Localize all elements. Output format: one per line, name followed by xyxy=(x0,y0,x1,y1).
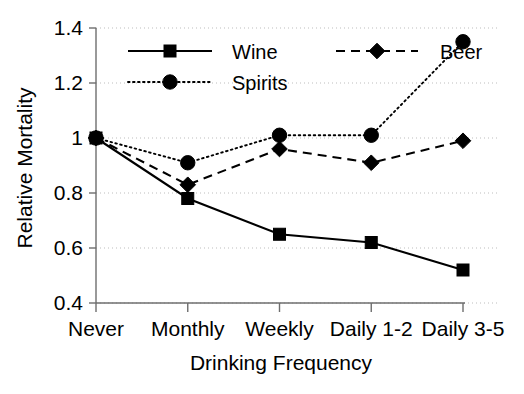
legend-item-spirits[interactable]: Spirits xyxy=(128,72,288,94)
x-tick-label: Daily 1-2 xyxy=(330,317,413,340)
data-point-marker xyxy=(274,228,286,240)
legend-item-beer[interactable]: Beer xyxy=(336,41,483,63)
chart-legend: WineSpiritsBeer xyxy=(128,41,483,94)
data-point-marker xyxy=(365,237,377,249)
x-tick-label: Weekly xyxy=(245,317,314,340)
y-tick-label: 0.8 xyxy=(54,181,83,204)
y-axis-tick-labels: 0.40.60.811.21.4 xyxy=(54,16,84,314)
legend-item-wine[interactable]: Wine xyxy=(128,41,278,63)
relative-mortality-line-chart: 0.40.60.811.21.4 NeverMonthlyWeeklyDaily… xyxy=(0,0,524,394)
data-point-marker xyxy=(363,155,379,171)
y-tick-label: 1.2 xyxy=(54,71,83,94)
data-point-marker xyxy=(457,264,469,276)
x-axis-tick-labels: NeverMonthlyWeeklyDaily 1-2Daily 3-5 xyxy=(68,317,504,340)
gridlines xyxy=(96,28,500,303)
x-tick-label: Daily 3-5 xyxy=(422,317,505,340)
series-line xyxy=(96,138,463,270)
data-series xyxy=(88,35,471,276)
y-axis-title: Relative Mortality xyxy=(13,87,36,249)
data-point-marker xyxy=(182,193,194,205)
data-point-marker xyxy=(181,156,195,170)
data-point-marker xyxy=(369,43,385,59)
legend-label: Beer xyxy=(440,41,483,63)
legend-label: Spirits xyxy=(232,72,288,94)
data-point-marker xyxy=(164,45,176,57)
legend-label: Wine xyxy=(232,41,278,63)
data-point-marker xyxy=(272,141,288,157)
x-tick-label: Monthly xyxy=(151,317,225,340)
y-tick-label: 1 xyxy=(71,126,83,149)
data-point-marker xyxy=(180,177,196,193)
x-axis-title: Drinking Frequency xyxy=(190,351,373,374)
data-point-marker xyxy=(163,75,177,89)
data-point-marker xyxy=(364,128,378,142)
data-point-marker xyxy=(272,128,286,142)
data-point-marker xyxy=(455,133,471,149)
y-tick-label: 0.4 xyxy=(54,291,84,314)
x-tick-label: Never xyxy=(68,317,124,340)
y-tick-label: 0.6 xyxy=(54,236,83,259)
chart-canvas: 0.40.60.811.21.4 NeverMonthlyWeeklyDaily… xyxy=(0,0,524,394)
y-tick-label: 1.4 xyxy=(54,16,84,39)
